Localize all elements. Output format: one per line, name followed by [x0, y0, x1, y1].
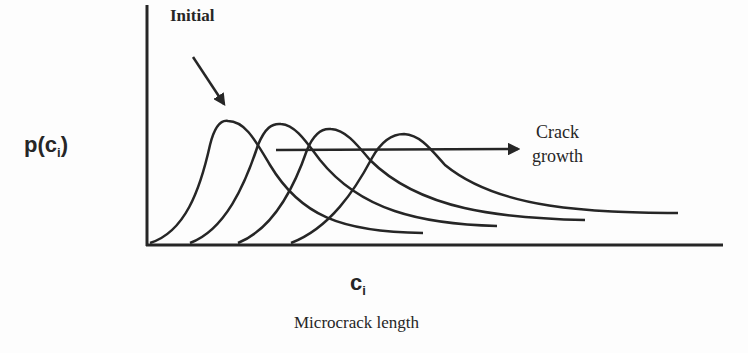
curve-2 — [190, 124, 497, 243]
figure: Initial Crack growth p(ci) ci Microcrack… — [0, 0, 748, 353]
crack-growth-label: Crack growth — [532, 120, 583, 168]
x-axis-symbol: ci — [350, 270, 366, 298]
x-symbol-subscript: i — [362, 283, 366, 298]
y-label-main: p(c — [24, 132, 57, 157]
x-symbol-main: c — [350, 270, 362, 295]
initial-label: Initial — [170, 6, 214, 26]
crack-growth-line1: Crack — [532, 120, 583, 144]
plot-area — [0, 0, 748, 353]
y-axis-label: p(ci) — [24, 132, 68, 160]
initial-arrow-icon — [193, 57, 224, 104]
x-axis-title: Microcrack length — [294, 313, 419, 333]
crack-growth-arrow-icon — [276, 149, 518, 150]
curve-initial — [150, 121, 423, 243]
y-label-close: ) — [61, 132, 68, 157]
crack-growth-line2: growth — [532, 144, 583, 168]
